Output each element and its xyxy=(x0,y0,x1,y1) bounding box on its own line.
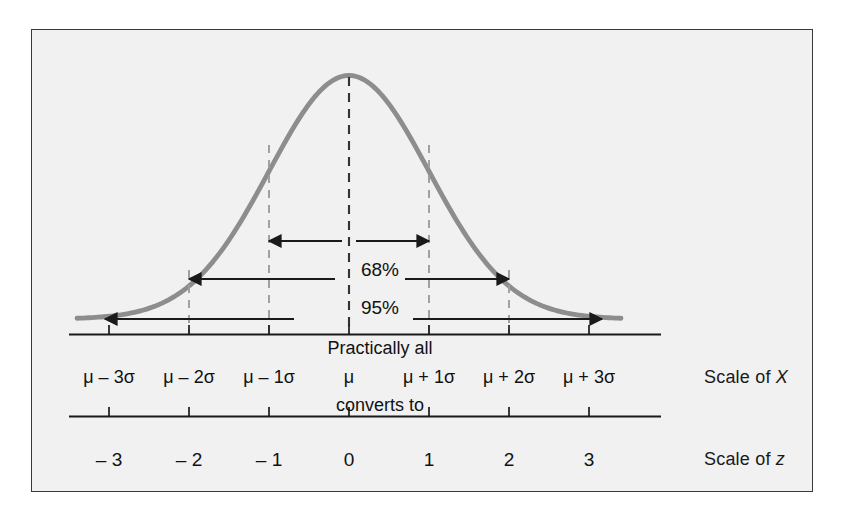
z-tick-label-minus-2: – 2 xyxy=(176,449,202,471)
reference-lines xyxy=(189,77,509,333)
x-tick-label-plus-1-sigma: μ + 1σ xyxy=(403,367,455,388)
z-axis-caption-text: Scale of xyxy=(704,449,776,469)
z-tick-label-three: 3 xyxy=(584,449,595,471)
z-axis-caption: Scale of z xyxy=(704,449,785,470)
x-tick-label-minus-1-sigma: μ – 1σ xyxy=(243,367,295,388)
x-axis-caption-symbol: X xyxy=(776,367,788,387)
z-tick-label-minus-1: – 1 xyxy=(256,449,282,471)
bell-curve-plot xyxy=(32,30,812,491)
z-tick-label-two: 2 xyxy=(504,449,515,471)
band-all-label: Practically all xyxy=(321,338,438,359)
x-tick-label-plus-2-sigma: μ + 2σ xyxy=(483,367,535,388)
z-tick-label-zero: 0 xyxy=(344,449,355,471)
x-tick-label-minus-3-sigma: μ – 3σ xyxy=(83,367,135,388)
x-axis-caption-text: Scale of xyxy=(704,367,776,387)
z-axis-caption-symbol: z xyxy=(776,449,785,469)
x-axis xyxy=(69,325,661,335)
normal-distribution-figure: 68% 95% Practically all μ – 3σ μ – 2σ μ … xyxy=(31,29,813,492)
converts-to-label: converts to xyxy=(336,395,424,416)
x-tick-label-plus-3-sigma: μ + 3σ xyxy=(563,367,615,388)
z-tick-label-minus-3: – 3 xyxy=(96,449,122,471)
x-tick-label-minus-2-sigma: μ – 2σ xyxy=(163,367,215,388)
x-axis-caption: Scale of X xyxy=(704,367,788,388)
band-95-label: 95% xyxy=(355,297,405,319)
band-68-label: 68% xyxy=(355,259,405,281)
z-tick-label-one: 1 xyxy=(424,449,435,471)
x-tick-label-mu: μ xyxy=(344,367,354,388)
figure-page: 68% 95% Practically all μ – 3σ μ – 2σ μ … xyxy=(0,0,845,522)
